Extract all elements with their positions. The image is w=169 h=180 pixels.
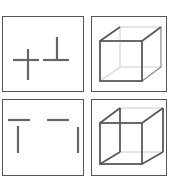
panel-bottom-right-cube bbox=[91, 99, 167, 176]
necker-cube-back-figure bbox=[92, 100, 168, 177]
panel-top-left-crosses bbox=[2, 16, 84, 92]
line-fragments-figure bbox=[3, 100, 85, 177]
necker-cube-front-figure bbox=[92, 17, 168, 93]
cross-and-t-figure bbox=[3, 17, 85, 93]
panel-top-right-cube bbox=[91, 16, 167, 92]
panel-bottom-left-fragments bbox=[2, 99, 84, 176]
